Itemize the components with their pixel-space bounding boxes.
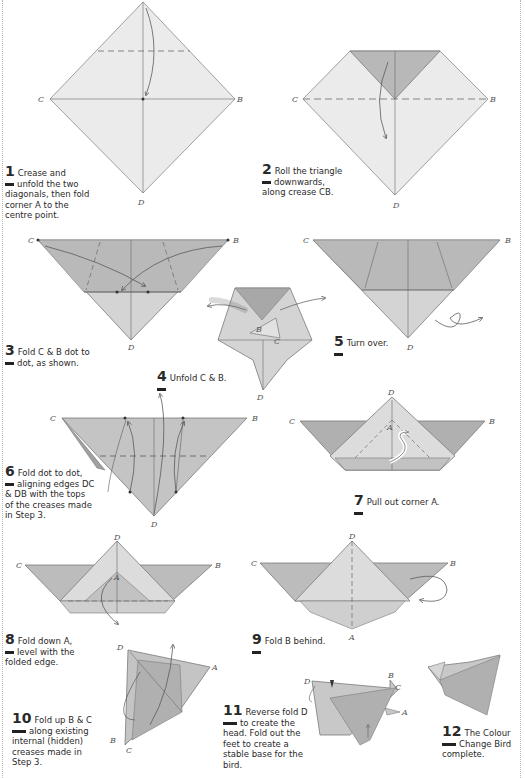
step-8-number: 8 xyxy=(5,633,15,645)
step-3-diagram: C B D xyxy=(28,236,239,352)
step-9-diagram: D C B A xyxy=(251,532,456,642)
svg-text:A: A xyxy=(401,708,408,717)
svg-text:D: D xyxy=(127,343,135,352)
svg-text:B: B xyxy=(255,325,262,334)
svg-text:C: C xyxy=(303,236,309,245)
svg-text:C: C xyxy=(50,414,56,423)
step-9-number: 9 xyxy=(252,633,262,645)
step-2-number: 2 xyxy=(262,163,272,175)
step-3-number: 3 xyxy=(5,344,15,356)
step-8-caption: 8Fold down A, level with the folded edge… xyxy=(5,633,85,668)
step-12-diagram xyxy=(428,655,500,715)
svg-text:C: C xyxy=(292,95,298,104)
step-marker xyxy=(5,362,14,365)
svg-text:D: D xyxy=(406,343,414,352)
svg-text:A: A xyxy=(113,573,120,582)
svg-text:A: A xyxy=(386,423,393,432)
step-7-diagram: D C B A xyxy=(289,388,495,470)
step-marker xyxy=(223,722,237,725)
svg-text:C: C xyxy=(38,95,44,104)
svg-text:C: C xyxy=(251,559,257,568)
svg-text:C: C xyxy=(395,683,401,692)
svg-text:D: D xyxy=(387,388,395,397)
step-1-number: 1 xyxy=(5,165,15,177)
step-7-number: 7 xyxy=(354,494,364,506)
step-9-caption: 9Fold B behind. xyxy=(252,633,332,657)
instruction-page: C B D C B D xyxy=(0,0,525,778)
svg-text:C: C xyxy=(28,236,34,245)
step-marker xyxy=(157,388,166,391)
step-marker xyxy=(262,181,271,184)
step-marker xyxy=(12,730,26,733)
svg-text:B: B xyxy=(232,236,239,245)
step-2-caption: 2Roll the triangle downwards, along crea… xyxy=(262,163,352,198)
svg-text:B: B xyxy=(214,561,221,570)
step-6-caption: 6Fold dot to dot, aligning edges DC & DB… xyxy=(5,465,95,521)
step-marker xyxy=(442,743,456,746)
svg-text:D: D xyxy=(116,643,124,652)
svg-text:B: B xyxy=(387,671,394,680)
svg-text:D: D xyxy=(113,533,121,542)
step-5-caption: 5Turn over. xyxy=(334,335,404,359)
step-marker xyxy=(252,651,261,654)
step-3-caption: 3Fold C & B dot to dot, as shown. xyxy=(5,344,95,368)
step-7-caption: 7Pull out corner A. xyxy=(354,494,444,518)
svg-text:C: C xyxy=(16,561,22,570)
svg-text:C: C xyxy=(126,746,132,755)
step-1-caption: 1Crease and unfold the two diagonals, th… xyxy=(5,165,90,221)
step-10-number: 10 xyxy=(12,712,31,724)
step-4-number: 4 xyxy=(157,370,167,382)
step-marker xyxy=(5,183,14,186)
step-marker xyxy=(354,512,363,515)
step-11-number: 11 xyxy=(223,704,242,716)
svg-text:B: B xyxy=(488,417,495,426)
svg-text:D: D xyxy=(137,198,145,207)
svg-text:B: B xyxy=(449,559,456,568)
svg-text:A: A xyxy=(348,633,355,642)
svg-text:C: C xyxy=(289,417,295,426)
step-marker xyxy=(5,483,14,486)
step-marker xyxy=(5,651,14,654)
svg-text:D: D xyxy=(392,201,400,210)
step-8-diagram: D C B A xyxy=(16,533,221,624)
svg-text:B: B xyxy=(109,736,116,745)
step-10-diagram: D A B C xyxy=(109,643,218,755)
step-11-diagram: D B C A xyxy=(303,671,408,745)
step-12-number: 12 xyxy=(442,725,461,737)
svg-text:B: B xyxy=(504,236,511,245)
step-11-caption: 11Reverse fold D to create the head. Fol… xyxy=(223,704,308,770)
svg-text:D: D xyxy=(256,393,264,402)
step-5-number: 5 xyxy=(334,335,344,347)
svg-text:B: B xyxy=(236,95,243,104)
svg-text:D: D xyxy=(348,532,356,541)
step-10-caption: 10Fold up B & C along existing internal … xyxy=(12,712,97,768)
step-4-caption: 4Unfold C & B. xyxy=(157,370,237,394)
step-6-number: 6 xyxy=(5,465,15,477)
svg-text:C: C xyxy=(274,337,280,346)
svg-text:B: B xyxy=(251,414,258,423)
step-12-caption: 12The Colour Change Bird complete. xyxy=(442,725,517,760)
svg-text:B: B xyxy=(489,95,496,104)
svg-text:D: D xyxy=(303,677,311,686)
svg-text:A: A xyxy=(211,663,218,672)
step-marker xyxy=(334,353,343,356)
svg-text:D: D xyxy=(150,520,158,529)
